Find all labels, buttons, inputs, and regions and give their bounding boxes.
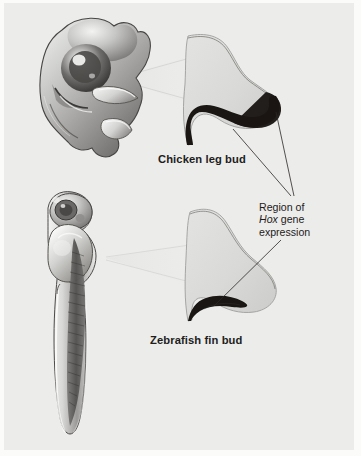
chicken-leg-bud-diagram [183, 35, 281, 146]
magnification-connector-zebrafish [106, 243, 190, 285]
annotation-line-3: expression [259, 226, 310, 238]
chicken-embryo-illustration [40, 18, 150, 157]
caption-chicken-leg-bud: Chicken leg bud [158, 153, 246, 165]
annotation-gene-name: Hox [259, 213, 278, 225]
figure-root: Chicken leg bud Zebrafish fin bud Region… [0, 0, 361, 456]
annotation-hox-expression: Region of Hox gene expression [259, 201, 345, 238]
leader-chicken-tip [276, 112, 294, 196]
annotation-line-2-rest: gene [278, 213, 305, 225]
caption-zebrafish-fin-bud: Zebrafish fin bud [150, 334, 242, 346]
annotation-line-1: Region of [259, 201, 304, 213]
zebrafish-larva-illustration [48, 192, 96, 434]
